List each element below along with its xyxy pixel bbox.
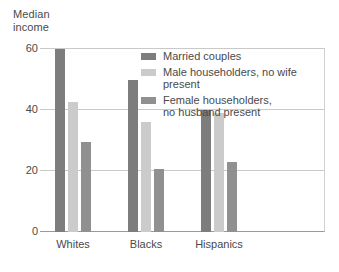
bar bbox=[214, 113, 224, 232]
legend-item-male-householders: Male householders, no wife present bbox=[141, 66, 336, 91]
bar bbox=[154, 169, 164, 232]
legend-swatch-male-householders bbox=[141, 69, 156, 76]
legend-swatch-married-couples bbox=[141, 53, 156, 60]
chart-legend: Married couples Male householders, no wi… bbox=[141, 50, 336, 122]
x-axis-label-blacks: Blacks bbox=[106, 238, 186, 250]
median-income-bar-chart: Median income 60 40 20 0 Whites Blacks H… bbox=[0, 0, 339, 272]
chart-title: Median income bbox=[13, 8, 50, 34]
legend-label-married-couples: Married couples bbox=[163, 50, 241, 63]
y-axis-tick-40: 40 bbox=[12, 104, 38, 115]
bar bbox=[128, 80, 138, 233]
x-axis-label-whites: Whites bbox=[33, 238, 113, 250]
y-axis-tick-60: 60 bbox=[12, 43, 38, 54]
bar bbox=[227, 162, 237, 232]
legend-label-female-householders: Female householders, no husband present bbox=[163, 94, 272, 119]
legend-item-married-couples: Married couples bbox=[141, 50, 336, 63]
x-axis-label-hispanics: Hispanics bbox=[179, 238, 259, 250]
y-axis-tick-20: 20 bbox=[12, 165, 38, 176]
legend-item-female-householders: Female householders, no husband present bbox=[141, 94, 336, 119]
bar bbox=[201, 110, 211, 232]
bar bbox=[81, 142, 91, 232]
bar bbox=[55, 49, 65, 232]
legend-swatch-female-householders bbox=[141, 97, 156, 104]
bar bbox=[141, 122, 151, 232]
y-axis-tick-0: 0 bbox=[12, 226, 38, 237]
legend-label-male-householders: Male householders, no wife present bbox=[163, 66, 336, 91]
bar bbox=[68, 102, 78, 232]
